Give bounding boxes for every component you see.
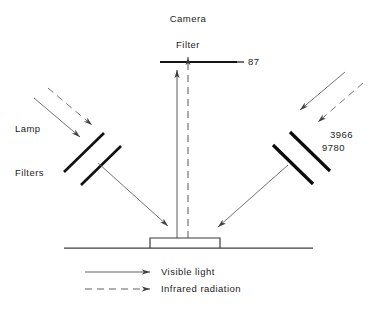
specimen-stage-box [150,238,220,248]
ray-right-reflected-to-specimen [218,165,288,227]
ray-left-infrared-incoming [48,88,92,125]
label-camera: Camera [170,14,207,24]
label-lamp: Lamp [15,124,41,134]
legend-label-visible-light: Visible light [161,267,215,277]
label-filter-number-87: 87 [248,57,259,67]
ray-right-visible-incoming [300,72,345,110]
label-filters: Filters [15,168,44,178]
label-right-filter-3966: 3966 [330,130,353,140]
legend-label-infrared-radiation: Infrared radiation [161,284,241,294]
ray-left-visible-incoming [34,98,80,137]
label-filter: Filter [176,40,200,50]
right-filter-bar-2 [273,145,313,184]
label-right-filter-9780: 9780 [322,143,345,153]
left-filter-bar-1 [64,133,104,172]
ray-left-reflected-to-specimen [98,163,168,226]
optical-setup-diagram: Camera Filter 87 Lamp Filters 3966 9780 … [0,0,375,315]
